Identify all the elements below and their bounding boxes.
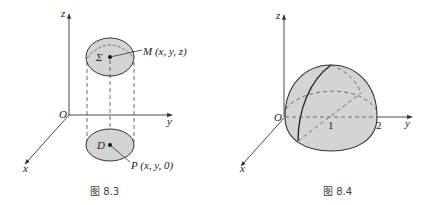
hemisphere [285,65,377,151]
figure-8-4: z y x O 1 2 图 8.4 [239,9,412,197]
caption-8-3: 图 8.3 [90,186,119,197]
point-m-label: M (x, y, z) [142,45,187,58]
y-axis-label: y [404,117,410,129]
point-p-label: P (x, y, 0) [130,159,174,172]
origin-label: O [59,108,67,120]
tick-2-label: 2 [376,119,382,131]
y-axis-label: y [166,115,172,127]
x-axis-label: x [239,162,245,174]
x-axis [241,118,284,166]
x-axis [25,115,69,164]
figures-canvas: z y x O Σ D M (x, y, z) P (x, y, 0) 图 8.… [0,0,430,205]
x-axis-label: x [22,162,28,174]
tick-1-label: 1 [328,119,334,131]
z-axis-label: z [60,7,66,19]
caption-8-4: 图 8.4 [323,186,352,197]
figure-8-3: z y x O Σ D M (x, y, z) P (x, y, 0) 图 8.… [22,7,187,197]
sigma-label: Σ [95,51,103,63]
origin-label: O [274,111,282,123]
z-axis-label: z [275,9,281,21]
d-label: D [96,139,105,151]
